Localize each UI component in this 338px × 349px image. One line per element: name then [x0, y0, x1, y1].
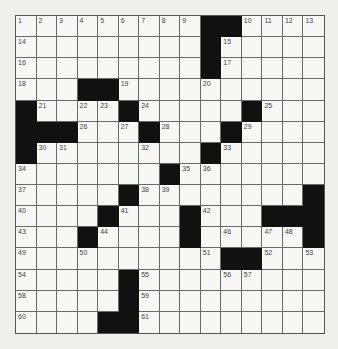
crossword-cell[interactable]	[119, 227, 140, 248]
crossword-cell[interactable]	[57, 312, 78, 333]
crossword-cell[interactable]	[262, 312, 283, 333]
crossword-cell[interactable]	[57, 79, 78, 100]
crossword-cell[interactable]	[242, 227, 263, 248]
crossword-cell[interactable]: 18	[16, 79, 37, 100]
crossword-cell[interactable]: 52	[262, 248, 283, 269]
crossword-cell[interactable]: 6	[119, 16, 140, 37]
crossword-cell[interactable]	[160, 206, 181, 227]
crossword-cell[interactable]	[139, 58, 160, 79]
crossword-cell[interactable]: 46	[221, 227, 242, 248]
crossword-cell[interactable]	[78, 58, 99, 79]
crossword-cell[interactable]	[98, 37, 119, 58]
crossword-cell[interactable]	[283, 37, 304, 58]
crossword-cell[interactable]	[262, 185, 283, 206]
crossword-cell[interactable]: 34	[16, 164, 37, 185]
crossword-cell[interactable]	[180, 248, 201, 269]
crossword-cell[interactable]	[78, 185, 99, 206]
crossword-cell[interactable]	[283, 58, 304, 79]
crossword-cell[interactable]: 2	[37, 16, 58, 37]
crossword-cell[interactable]: 1	[16, 16, 37, 37]
crossword-cell[interactable]	[242, 143, 263, 164]
crossword-cell[interactable]: 39	[160, 185, 181, 206]
crossword-cell[interactable]: 33	[221, 143, 242, 164]
crossword-cell[interactable]	[160, 143, 181, 164]
crossword-cell[interactable]: 7	[139, 16, 160, 37]
crossword-cell[interactable]: 23	[98, 101, 119, 122]
crossword-cell[interactable]	[242, 37, 263, 58]
crossword-cell[interactable]	[242, 206, 263, 227]
crossword-cell[interactable]	[180, 101, 201, 122]
crossword-cell[interactable]	[221, 291, 242, 312]
crossword-cell[interactable]	[303, 58, 324, 79]
crossword-cell[interactable]	[201, 312, 222, 333]
crossword-cell[interactable]	[57, 185, 78, 206]
crossword-cell[interactable]	[139, 164, 160, 185]
crossword-cell[interactable]: 59	[139, 291, 160, 312]
crossword-cell[interactable]: 24	[139, 101, 160, 122]
crossword-cell[interactable]	[78, 164, 99, 185]
crossword-cell[interactable]: 19	[119, 79, 140, 100]
crossword-cell[interactable]	[221, 312, 242, 333]
crossword-cell[interactable]	[303, 291, 324, 312]
crossword-cell[interactable]	[78, 143, 99, 164]
crossword-cell[interactable]	[98, 58, 119, 79]
crossword-cell[interactable]	[160, 270, 181, 291]
crossword-cell[interactable]	[57, 227, 78, 248]
crossword-cell[interactable]	[57, 248, 78, 269]
crossword-cell[interactable]: 25	[262, 101, 283, 122]
crossword-cell[interactable]: 56	[221, 270, 242, 291]
crossword-cell[interactable]: 48	[283, 227, 304, 248]
crossword-cell[interactable]: 51	[201, 248, 222, 269]
crossword-cell[interactable]	[283, 312, 304, 333]
crossword-cell[interactable]	[180, 185, 201, 206]
crossword-cell[interactable]	[180, 312, 201, 333]
crossword-cell[interactable]	[78, 37, 99, 58]
crossword-cell[interactable]	[283, 164, 304, 185]
crossword-cell[interactable]	[98, 270, 119, 291]
crossword-cell[interactable]: 38	[139, 185, 160, 206]
crossword-cell[interactable]	[180, 291, 201, 312]
crossword-cell[interactable]: 60	[16, 312, 37, 333]
crossword-cell[interactable]	[303, 79, 324, 100]
crossword-cell[interactable]	[37, 164, 58, 185]
crossword-cell[interactable]: 29	[242, 122, 263, 143]
crossword-cell[interactable]	[221, 206, 242, 227]
crossword-cell[interactable]	[98, 122, 119, 143]
crossword-cell[interactable]	[37, 206, 58, 227]
crossword-cell[interactable]	[303, 37, 324, 58]
crossword-cell[interactable]	[283, 291, 304, 312]
crossword-cell[interactable]	[119, 143, 140, 164]
crossword-cell[interactable]: 43	[16, 227, 37, 248]
crossword-cell[interactable]	[160, 58, 181, 79]
crossword-cell[interactable]	[262, 58, 283, 79]
crossword-cell[interactable]	[242, 291, 263, 312]
crossword-cell[interactable]: 13	[303, 16, 324, 37]
crossword-cell[interactable]	[119, 37, 140, 58]
crossword-cell[interactable]	[37, 185, 58, 206]
crossword-cell[interactable]	[57, 291, 78, 312]
crossword-cell[interactable]	[262, 291, 283, 312]
crossword-cell[interactable]	[201, 227, 222, 248]
crossword-cell[interactable]	[160, 248, 181, 269]
crossword-cell[interactable]	[37, 37, 58, 58]
crossword-cell[interactable]: 50	[78, 248, 99, 269]
crossword-cell[interactable]	[139, 248, 160, 269]
crossword-cell[interactable]	[262, 164, 283, 185]
crossword-cell[interactable]	[262, 270, 283, 291]
crossword-cell[interactable]	[201, 270, 222, 291]
crossword-cell[interactable]: 54	[16, 270, 37, 291]
crossword-cell[interactable]	[57, 101, 78, 122]
crossword-cell[interactable]	[201, 122, 222, 143]
crossword-cell[interactable]: 35	[180, 164, 201, 185]
crossword-cell[interactable]	[201, 291, 222, 312]
crossword-cell[interactable]	[160, 37, 181, 58]
crossword-cell[interactable]	[37, 79, 58, 100]
crossword-cell[interactable]	[221, 185, 242, 206]
crossword-cell[interactable]: 3	[57, 16, 78, 37]
crossword-cell[interactable]	[57, 270, 78, 291]
crossword-cell[interactable]	[303, 270, 324, 291]
crossword-cell[interactable]: 11	[262, 16, 283, 37]
crossword-cell[interactable]	[78, 206, 99, 227]
crossword-cell[interactable]	[180, 270, 201, 291]
crossword-cell[interactable]	[262, 122, 283, 143]
